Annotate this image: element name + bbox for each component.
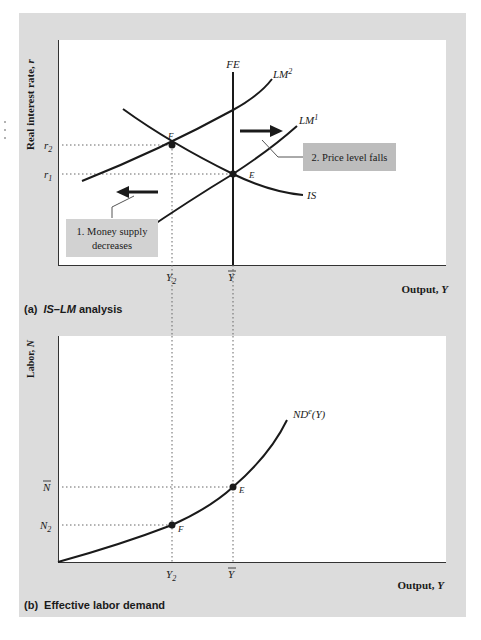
panel-b-caption: (b)Effective labor demand: [24, 599, 165, 611]
r1-tick: r1: [44, 168, 52, 183]
r2-tick: r2: [44, 139, 52, 154]
money-supply-text-1: 1. Money supply: [77, 226, 149, 237]
panel-b: E F NDe(Y) N N2 Y2 Y Labor, N Output, Y …: [24, 336, 446, 611]
fe-label: FE: [225, 58, 240, 70]
panel-b-y-title: Labor, N: [25, 339, 36, 378]
point-e-b: [230, 484, 237, 491]
point-e-label: E: [248, 170, 255, 180]
point-f-b: [169, 522, 176, 529]
money-supply-box: [66, 219, 158, 257]
panel-a-x-title: Output, Y: [402, 283, 450, 295]
point-e: [230, 171, 237, 178]
point-e-b-label: E: [238, 485, 245, 495]
price-level-text: 2. Price level falls: [312, 152, 388, 163]
point-f-label: F: [167, 131, 174, 141]
panel-b-x-title: Output, Y: [398, 579, 446, 591]
ybar-tick-b: Y: [228, 568, 236, 580]
ybar-tick: Y: [228, 271, 236, 283]
n2-tick: N2: [39, 519, 51, 534]
point-f-b-label: F: [177, 524, 184, 534]
nbar-tick: N: [42, 481, 51, 493]
y2-tick-b: Y2: [166, 568, 176, 583]
panel-b-plot-area: [58, 336, 446, 562]
money-supply-text-2: decreases: [92, 240, 132, 251]
panel-a-caption: (a)IS–LM analysis: [24, 303, 122, 315]
y2-tick: Y2: [166, 271, 176, 286]
point-f: [169, 142, 176, 149]
panel-a-y-title: Real interest rate, r: [24, 58, 36, 150]
isl-lm-figure: 2. Price level falls 1. Money supply dec…: [0, 0, 481, 640]
is-label: IS: [306, 189, 317, 201]
